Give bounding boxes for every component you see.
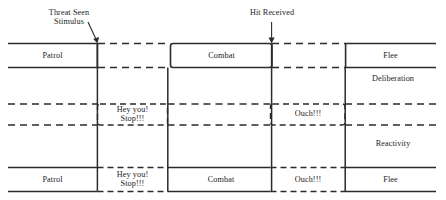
box-label-patrol-top: Patrol — [8, 51, 97, 60]
reactivity-gap-right — [345, 104, 436, 125]
box-label-flee-top: Flee — [346, 51, 435, 60]
lane-label-deliberation: Deliberation — [352, 74, 434, 83]
annotation-hit-received-line1: Hit Received — [222, 8, 322, 17]
box-label-flee-bottom: Flee — [346, 175, 435, 184]
annotation-threat-seen-line1: Threat Seen — [34, 8, 104, 17]
diagram-canvas: Threat Seen Stimulus Hit Received Delibe… — [0, 0, 446, 200]
box-label-ouch-bottom: Ouch!!! — [271, 175, 345, 184]
reactivity-gap-middle — [168, 104, 271, 125]
box-label-combat-bottom: Combat — [171, 175, 271, 184]
box-label-hey-you-stop-bottom: Hey you! Stop!!! — [98, 170, 167, 188]
deliberation-gap-combat-flee — [272, 44, 345, 68]
box-label-patrol-bottom: Patrol — [8, 175, 97, 184]
box-label-hey-you-stop-mid: Hey you! Stop!!! — [98, 105, 167, 123]
box-label-combat-top: Combat — [171, 51, 272, 60]
box-label-ouch-mid: Ouch!!! — [271, 109, 345, 118]
annotation-threat-seen-line2: Stimulus — [34, 17, 104, 26]
deliberation-gap-patrol-combat — [98, 44, 170, 68]
diagram-vector-layer — [0, 0, 446, 200]
lane-label-reactivity: Reactivity — [352, 139, 434, 148]
reactivity-gap-left — [8, 104, 97, 125]
hit-received-arrow-icon — [269, 22, 275, 43]
